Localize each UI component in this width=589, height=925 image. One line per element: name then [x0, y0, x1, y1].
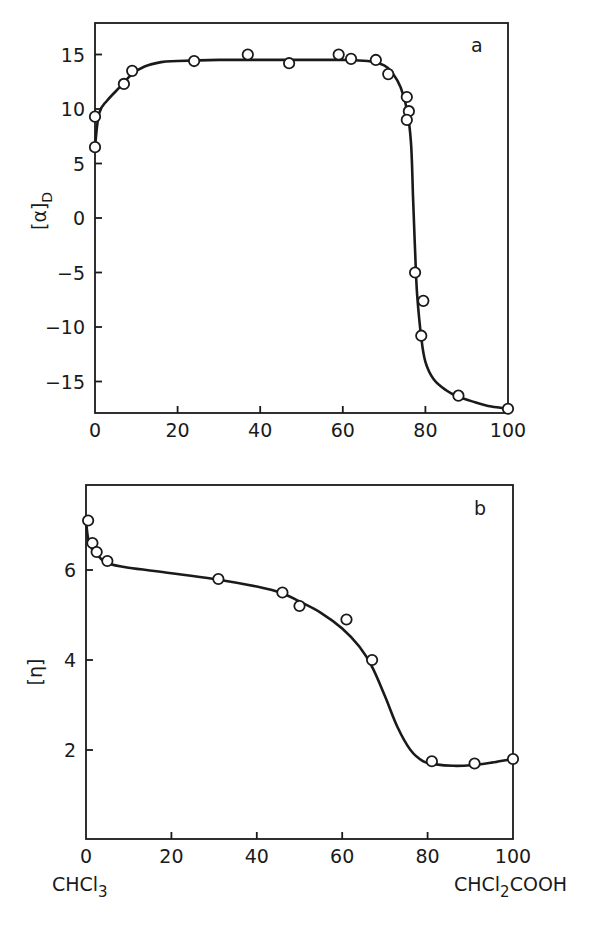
data-point-marker — [469, 758, 479, 768]
data-point-marker — [213, 574, 223, 584]
panel-a-y-axis-label: [α]D — [28, 192, 55, 230]
data-point-marker — [91, 547, 101, 557]
data-point-marker — [189, 56, 199, 66]
y-tick-label: −10 — [45, 316, 85, 338]
data-point-marker — [383, 69, 393, 79]
y-tick-label: 4 — [64, 649, 76, 671]
x-right-solvent-label: CHCl2COOH — [454, 873, 567, 901]
y-tick-label: 10 — [61, 98, 85, 120]
data-point-marker — [402, 92, 412, 102]
y-tick-label: −15 — [45, 371, 85, 393]
panel-a-x-ticks: 020406080100 — [89, 406, 526, 441]
data-point-marker — [90, 111, 100, 121]
data-point-marker — [341, 614, 351, 624]
y-tick-label: 5 — [73, 153, 85, 175]
data-point-marker — [402, 115, 412, 125]
data-point-marker — [410, 267, 420, 277]
x-tick-label: 100 — [490, 419, 526, 441]
x-tick-label: 60 — [330, 845, 354, 867]
x-tick-label: 0 — [80, 845, 92, 867]
data-point-marker — [367, 655, 377, 665]
figure: 020406080100 151050−5−10−15 a [α]D 02040… — [0, 0, 589, 925]
panel-b-data-points — [83, 515, 518, 768]
panel-a-data-points — [90, 49, 513, 414]
panel-b-fit-curve — [86, 521, 513, 766]
x-tick-label: 80 — [413, 419, 437, 441]
panel-a-label: a — [471, 34, 483, 56]
data-point-marker — [371, 55, 381, 65]
panel-b-viscosity-chart: 020406080100 642 b [η] CHCl3 CHCl2COOH — [24, 485, 567, 901]
x-tick-label: 20 — [159, 845, 183, 867]
y-tick-label: 6 — [64, 559, 76, 581]
x-tick-label: 40 — [248, 419, 272, 441]
x-tick-label: 60 — [331, 419, 355, 441]
y-label-alpha: [α] — [28, 203, 50, 230]
data-point-marker — [102, 556, 112, 566]
y-tick-label: 0 — [73, 207, 85, 229]
panel-b-label: b — [474, 497, 486, 519]
data-point-marker — [90, 142, 100, 152]
data-point-marker — [119, 79, 129, 89]
data-point-marker — [346, 54, 356, 64]
y-tick-label: 2 — [64, 739, 76, 761]
data-point-marker — [453, 390, 463, 400]
svg-text:[η]: [η] — [24, 659, 46, 686]
x-left-solvent-label: CHCl3 — [52, 873, 108, 901]
x-tick-label: 80 — [416, 845, 440, 867]
panel-b-y-axis-label: [η] — [24, 659, 46, 686]
y-label-subscript-d: D — [39, 192, 55, 203]
data-point-marker — [243, 49, 253, 59]
data-point-marker — [127, 66, 137, 76]
panel-b-frame — [86, 485, 513, 839]
data-point-marker — [508, 754, 518, 764]
y-tick-label: −5 — [57, 262, 85, 284]
y-tick-label: 15 — [61, 44, 85, 66]
data-point-marker — [333, 49, 343, 59]
data-point-marker — [83, 515, 93, 525]
panel-b-x-ticks: 020406080100 — [80, 832, 531, 867]
data-point-marker — [418, 296, 428, 306]
data-point-marker — [416, 331, 426, 341]
data-point-marker — [294, 601, 304, 611]
data-point-marker — [427, 756, 437, 766]
panel-a-fit-curve — [95, 60, 508, 409]
x-tick-label: 100 — [495, 845, 531, 867]
data-point-marker — [284, 58, 294, 68]
panel-a-frame — [95, 23, 508, 413]
data-point-marker — [277, 587, 287, 597]
x-tick-label: 20 — [166, 419, 190, 441]
svg-text:[α]D: [α]D — [28, 192, 55, 230]
panel-b-y-ticks: 642 — [64, 559, 93, 761]
x-tick-label: 40 — [245, 845, 269, 867]
panel-a-y-ticks: 151050−5−10−15 — [45, 44, 102, 393]
panel-a-optical-rotation-chart: 020406080100 151050−5−10−15 a [α]D — [28, 23, 526, 441]
data-point-marker — [503, 404, 513, 414]
x-tick-label: 0 — [89, 419, 101, 441]
